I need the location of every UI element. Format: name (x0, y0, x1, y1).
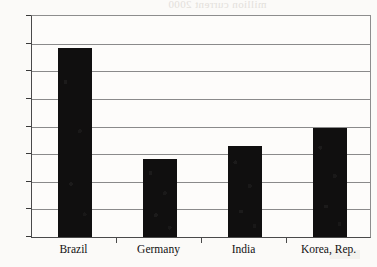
y-axis-tick-mark (26, 70, 31, 71)
bar (313, 128, 347, 237)
y-axis-tick-mark (26, 236, 31, 237)
y-axis-tick-mark (26, 98, 31, 99)
x-axis-tick-label: India (232, 243, 256, 255)
gridline (32, 44, 370, 45)
y-axis-tick-mark (26, 208, 31, 209)
x-axis-tick-label: Germany (137, 243, 180, 255)
x-axis-tick-mark (116, 238, 117, 243)
x-axis-tick-mark (286, 238, 287, 243)
y-axis-tick-mark (26, 126, 31, 127)
plot-area (31, 15, 371, 238)
page-bleedthrough-text: million current 2000 (168, 0, 266, 10)
chart-page: million current 2000 0246810121416Brazil… (0, 0, 377, 267)
x-axis-tick-label: Korea, Rep. (301, 243, 356, 255)
y-axis-tick-mark (26, 15, 31, 16)
x-axis-tick-label: Brazil (59, 243, 87, 255)
bar (143, 159, 177, 237)
y-axis-tick-mark (26, 153, 31, 154)
x-axis-tick-mark (201, 238, 202, 243)
y-axis-tick-mark (26, 181, 31, 182)
bar (228, 146, 262, 237)
y-axis-tick-mark (26, 43, 31, 44)
bar (58, 48, 92, 237)
